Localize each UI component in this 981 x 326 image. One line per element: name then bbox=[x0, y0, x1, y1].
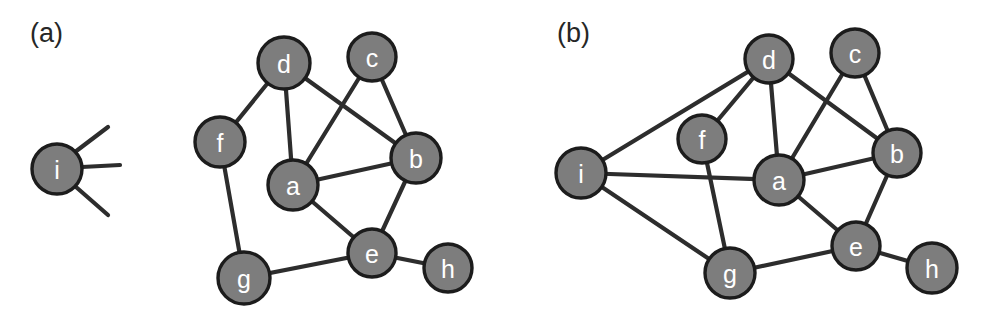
node-b[interactable]: b bbox=[873, 129, 921, 177]
node-label-a: a bbox=[772, 167, 786, 195]
node-label-b: b bbox=[890, 140, 904, 168]
node-a[interactable]: a bbox=[268, 160, 318, 210]
graph-canvas: abcdefghi(a) abcdefghi(b) bbox=[0, 0, 981, 326]
panel-a: abcdefghi(a) bbox=[30, 18, 472, 304]
node-d[interactable]: d bbox=[745, 35, 793, 83]
node-i[interactable]: i bbox=[556, 148, 606, 198]
edge-g-i bbox=[581, 173, 730, 273]
node-b[interactable]: b bbox=[391, 133, 441, 183]
edge-d-i bbox=[581, 59, 769, 173]
node-a[interactable]: a bbox=[754, 155, 804, 205]
panel-caption-panel-a: (a) bbox=[30, 18, 63, 48]
node-label-a: a bbox=[286, 172, 300, 200]
node-i[interactable]: i bbox=[32, 144, 82, 194]
node-label-d: d bbox=[762, 46, 776, 74]
node-c[interactable]: c bbox=[348, 33, 396, 81]
node-label-c: c bbox=[366, 44, 379, 72]
node-label-f: f bbox=[217, 129, 224, 157]
node-label-i: i bbox=[578, 160, 584, 188]
dangling-edge-stub-2 bbox=[82, 165, 120, 167]
node-label-h: h bbox=[925, 255, 939, 283]
node-label-b: b bbox=[409, 145, 423, 173]
node-label-d: d bbox=[277, 50, 291, 78]
panel-caption-panel-b: (b) bbox=[557, 18, 590, 48]
node-label-g: g bbox=[237, 265, 251, 293]
node-g[interactable]: g bbox=[218, 252, 270, 304]
node-e[interactable]: e bbox=[832, 222, 880, 270]
node-label-e: e bbox=[365, 240, 379, 268]
node-label-f: f bbox=[699, 126, 706, 154]
node-f[interactable]: f bbox=[678, 115, 726, 163]
dangling-edge-stub-3 bbox=[76, 187, 108, 215]
node-h[interactable]: h bbox=[907, 243, 957, 293]
node-h[interactable]: h bbox=[424, 244, 472, 292]
node-label-e: e bbox=[849, 233, 863, 261]
dangling-edge-stub-1 bbox=[75, 127, 108, 152]
node-e[interactable]: e bbox=[348, 229, 396, 277]
node-label-h: h bbox=[441, 255, 455, 283]
node-d[interactable]: d bbox=[258, 37, 310, 89]
node-c[interactable]: c bbox=[831, 29, 879, 77]
node-label-g: g bbox=[723, 260, 737, 288]
node-label-c: c bbox=[849, 40, 862, 68]
node-label-i: i bbox=[54, 156, 60, 184]
node-g[interactable]: g bbox=[705, 248, 755, 298]
graph-figure: abcdefghi(a) abcdefghi(b) bbox=[0, 0, 981, 326]
edge-a-i bbox=[581, 173, 779, 180]
node-layer: abcdefghi bbox=[32, 33, 472, 304]
node-f[interactable]: f bbox=[195, 117, 245, 167]
panel-b: abcdefghi(b) bbox=[556, 18, 957, 298]
